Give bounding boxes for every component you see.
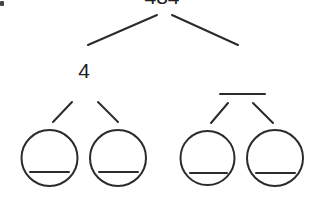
leaf-circle-1[interactable] <box>22 130 78 186</box>
leaf-circle-4[interactable] <box>247 130 303 186</box>
right-sub-left-branch <box>211 103 228 123</box>
leaf-circle-2[interactable] <box>90 130 146 186</box>
number-bond-diagram <box>0 0 314 213</box>
root-right-branch <box>172 15 238 45</box>
left-sub-right-branch <box>98 102 118 122</box>
root-left-branch <box>88 15 157 45</box>
leaf-circle-3[interactable] <box>181 131 235 185</box>
right-sub-right-branch <box>253 103 273 123</box>
left-sub-left-branch <box>53 102 72 122</box>
